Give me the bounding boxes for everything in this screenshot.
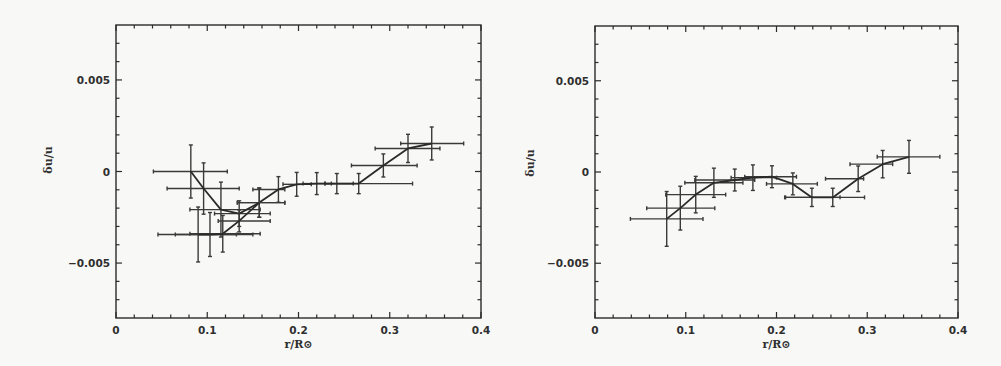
x-tick-label: 0.1 bbox=[676, 324, 695, 336]
y-axis-label: δu/u bbox=[42, 146, 55, 173]
plot-frame bbox=[595, 26, 958, 318]
x-tick-label: 0.4 bbox=[472, 324, 491, 336]
data-point bbox=[850, 150, 893, 177]
y-tick-label: 0 bbox=[103, 166, 110, 178]
y-tick-label: −0.005 bbox=[68, 257, 110, 269]
x-axis-label: r/R⊙ bbox=[284, 338, 312, 351]
y-tick-label: 0.005 bbox=[556, 75, 589, 87]
x-tick-label: 0 bbox=[112, 324, 119, 336]
series-inversion bbox=[630, 140, 939, 246]
series-upper-branch bbox=[153, 127, 463, 237]
x-tick-label: 0.2 bbox=[289, 324, 308, 336]
plot-panel-left: 00.10.20.30.4−0.00500.005r/R⊙δu/u bbox=[42, 25, 490, 351]
data-point bbox=[630, 192, 703, 247]
x-tick-label: 0.1 bbox=[198, 324, 217, 336]
plot-panel-right: 00.10.20.30.4−0.00500.005r/R⊙δu/u bbox=[524, 26, 967, 351]
data-point bbox=[237, 188, 284, 217]
x-tick-label: 0.3 bbox=[858, 324, 877, 336]
data-point bbox=[695, 169, 755, 191]
y-tick-label: −0.005 bbox=[547, 257, 589, 269]
x-axis-label: r/R⊙ bbox=[762, 338, 790, 351]
data-point bbox=[401, 127, 464, 160]
figure: 00.10.20.30.4−0.00500.005r/R⊙δu/u00.10.2… bbox=[0, 0, 1001, 366]
y-tick-label: 0.005 bbox=[77, 74, 110, 86]
x-tick-label: 0.4 bbox=[949, 324, 968, 336]
y-tick-label: 0 bbox=[582, 166, 589, 178]
x-tick-label: 0.2 bbox=[767, 324, 786, 336]
series-line bbox=[667, 157, 909, 219]
data-point bbox=[153, 145, 227, 198]
series-line bbox=[191, 144, 432, 214]
y-axis-label: δu/u bbox=[524, 149, 537, 176]
chart-canvas: 00.10.20.30.4−0.00500.005r/R⊙δu/u00.10.2… bbox=[0, 0, 1001, 366]
x-tick-label: 0.3 bbox=[380, 324, 399, 336]
x-tick-label: 0 bbox=[591, 324, 598, 336]
